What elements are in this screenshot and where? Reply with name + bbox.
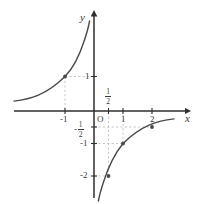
point-1-neg1 [121, 142, 125, 146]
x-axis-label: x [185, 113, 190, 124]
fraction-neg-half: 1 2 [78, 121, 84, 138]
x-tick-label-2: 2 [150, 115, 155, 124]
curve-branch-upper-left [14, 21, 90, 101]
y-axis-label: y [80, 12, 85, 23]
fraction-numerator: 1 [78, 121, 84, 129]
origin-label: O [97, 115, 104, 124]
fraction-denominator: 2 [105, 98, 111, 106]
fraction-numerator: 1 [105, 88, 111, 96]
y-tick-label-neg2: -2 [80, 171, 88, 180]
y-tick-label-1: 1 [85, 72, 90, 81]
point-half-neg2 [107, 174, 111, 178]
x-tick-label-neg1: -1 [60, 115, 68, 124]
coordinate-plane [0, 0, 200, 204]
curve-branch-lower-right [98, 119, 174, 201]
graph-figure: y x O -1 1 2 1 2 1 - 1 2 -1 -2 [0, 0, 200, 204]
point-2-neghalf [150, 125, 154, 129]
fraction-half: 1 2 [105, 88, 111, 105]
point-neg1-1 [63, 75, 67, 79]
x-tick-label-half: 1 2 [105, 88, 111, 105]
y-tick-label-neg1: -1 [80, 139, 88, 148]
y-tick-label-neghalf: - 1 2 [74, 121, 84, 138]
x-tick-label-1: 1 [121, 115, 126, 124]
fraction-denominator: 2 [78, 131, 84, 139]
